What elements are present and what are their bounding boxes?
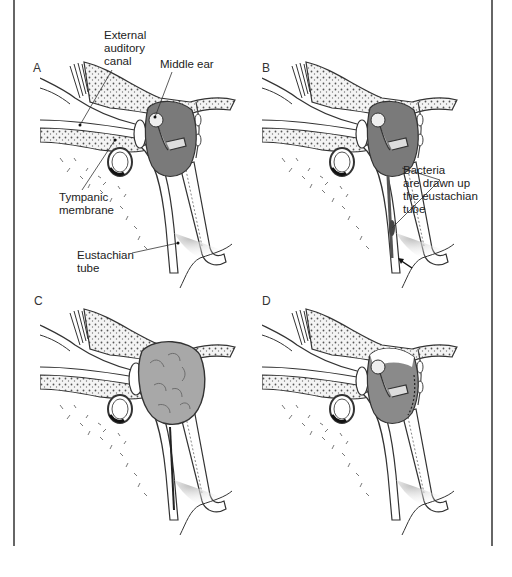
label-bacteria: Bacteria are drawn up the eustachian tub… [403,164,478,216]
leader-lines [0,0,512,577]
label-middle-ear: Middle ear [160,58,214,71]
label-tympanic-membrane: Tympanic membrane [59,191,114,217]
label-eustachian-tube: Eustachian tube [77,249,134,275]
